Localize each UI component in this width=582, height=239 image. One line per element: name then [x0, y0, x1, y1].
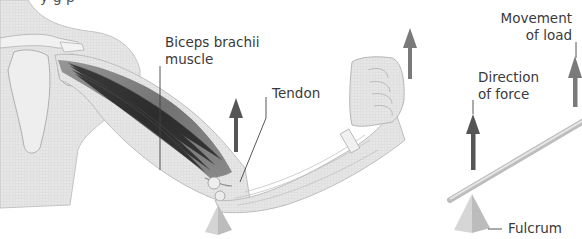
label-biceps-line2: muscle — [165, 51, 213, 68]
label-movement-line2: of load — [490, 27, 572, 44]
label-biceps-line1: Biceps brachii — [165, 34, 260, 51]
force-arrow-lever — [471, 130, 476, 170]
fulcrum-pyramid — [454, 194, 472, 233]
fist — [350, 57, 404, 126]
tendon-leader-line-2 — [240, 118, 266, 182]
label-fulcrum: Fulcrum — [508, 220, 562, 237]
label-direction-line2: of force — [478, 86, 529, 103]
lever-diagram: y g p Biceps brachii muscle Tendon Movem… — [0, 0, 582, 239]
load-arrow-arm — [403, 28, 417, 79]
load-arrow-lever — [573, 75, 578, 107]
force-arrow-arm — [229, 98, 243, 152]
label-tendon: Tendon — [272, 85, 320, 102]
label-direction-line1: Direction — [478, 69, 539, 86]
cut-off-title: y g p — [40, 0, 75, 5]
label-movement-line1: Movement — [490, 10, 572, 27]
